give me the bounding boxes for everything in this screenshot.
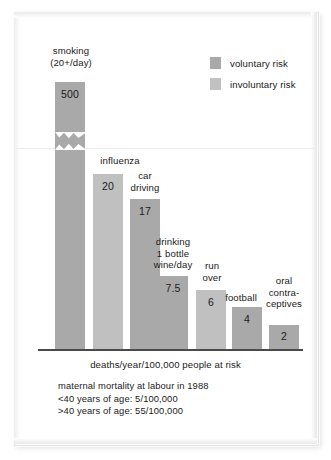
legend-swatch-voluntary — [210, 57, 221, 69]
legend-item-voluntary: voluntary risk — [210, 57, 296, 69]
axis-break-mark — [55, 132, 85, 150]
legend-label-voluntary: voluntary risk — [230, 58, 288, 69]
bar-value-smoking: 500 — [55, 88, 85, 100]
bar-smoking: 500 — [55, 82, 85, 349]
bar-chart: voluntary risk involuntary risk smoking … — [14, 12, 317, 444]
bar-value-oral-contraceptives: 2 — [269, 330, 299, 342]
bar-football: 4 — [232, 307, 262, 349]
bar-car-driving: 17 — [130, 199, 160, 349]
bar-caption-smoking: smoking (20+/day) — [32, 45, 110, 68]
bar-caption-oral-contraceptives: oral contra- ceptives — [253, 275, 315, 310]
legend-swatch-involuntary — [210, 78, 221, 90]
footnote-maternal-mortality: maternal mortality at labour in 1988 <40… — [58, 380, 209, 418]
x-axis-label: deaths/year/100,000 people at risk — [14, 359, 317, 370]
bar-drinking-wine: 7.5 — [158, 276, 188, 349]
bar-oral-contraceptives: 2 — [269, 325, 299, 349]
bar-value-car-driving: 17 — [130, 205, 160, 217]
bar-caption-influenza: influenza — [85, 155, 155, 167]
bar-caption-run-over: run over — [188, 260, 236, 283]
legend-item-involuntary: involuntary risk — [210, 78, 296, 90]
bar-influenza: 20 — [93, 174, 123, 349]
bar-value-football: 4 — [232, 313, 262, 325]
x-axis-line — [38, 349, 303, 351]
scanned-page: voluntary risk involuntary risk smoking … — [0, 0, 331, 460]
bar-caption-car-driving: car driving — [118, 170, 172, 193]
legend-label-involuntary: involuntary risk — [230, 79, 296, 90]
chart-legend: voluntary risk involuntary risk — [210, 57, 296, 99]
bar-value-drinking-wine: 7.5 — [158, 282, 188, 294]
